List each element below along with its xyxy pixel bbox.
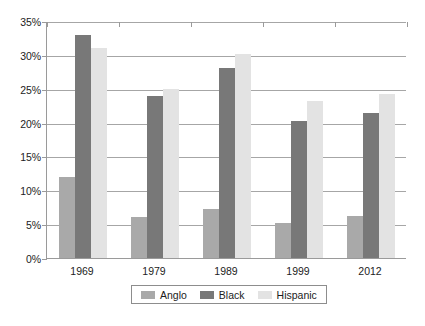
- legend-label-black: Black: [219, 289, 245, 301]
- legend-item-hispanic: Hispanic: [258, 289, 317, 301]
- legend-item-anglo: Anglo: [141, 289, 187, 301]
- legend-item-black: Black: [200, 289, 245, 301]
- bar-group: [119, 22, 191, 258]
- bar-hispanic: [235, 54, 251, 258]
- legend-swatch-icon-hispanic: [258, 291, 272, 299]
- bar-group: [191, 22, 263, 258]
- x-axis-tick-mark: [191, 22, 192, 27]
- bar-hispanic: [91, 48, 107, 258]
- bar-group: [335, 22, 407, 258]
- plot-area: [46, 22, 406, 259]
- chart-legend: Anglo Black Hispanic: [131, 285, 327, 304]
- x-axis-tick-mark: [263, 22, 264, 27]
- bar-anglo: [131, 217, 147, 258]
- y-axis-tick-label: 10%: [1, 185, 41, 197]
- y-axis-tick-label: 25%: [1, 84, 41, 96]
- bar-anglo: [347, 216, 363, 258]
- bar-group: [47, 22, 119, 258]
- bar-black: [291, 121, 307, 258]
- bar-anglo: [59, 177, 75, 258]
- y-axis-tick-label: 0%: [1, 253, 41, 265]
- x-axis-tick-label: 2012: [340, 265, 400, 277]
- x-axis-tick-label: 1979: [124, 265, 184, 277]
- x-axis-tick-mark: [119, 22, 120, 27]
- bar-black: [363, 113, 379, 258]
- x-axis-tick-label: 1999: [268, 265, 328, 277]
- bar-black: [75, 35, 91, 258]
- bar-hispanic: [379, 94, 395, 258]
- legend-label-anglo: Anglo: [160, 289, 187, 301]
- bar-black: [219, 68, 235, 258]
- bar-chart-figure: 0%5%10%15%20%25%30%35% 19691979198919992…: [0, 0, 425, 326]
- x-axis-tick-mark: [407, 22, 408, 27]
- bar-hispanic: [307, 101, 323, 258]
- x-axis-tick-mark: [335, 22, 336, 27]
- y-axis-tick-label: 20%: [1, 118, 41, 130]
- y-axis-tick-label: 35%: [1, 16, 41, 28]
- bar-group: [263, 22, 335, 258]
- legend-swatch-icon-black: [200, 291, 214, 299]
- y-axis-tick-label: 30%: [1, 50, 41, 62]
- legend-label-hispanic: Hispanic: [277, 289, 317, 301]
- legend-swatch-icon-anglo: [141, 291, 155, 299]
- bar-hispanic: [163, 89, 179, 258]
- x-axis-tick-mark: [47, 22, 48, 27]
- bar-anglo: [275, 223, 291, 258]
- bar-black: [147, 96, 163, 259]
- y-axis-tick-label: 15%: [1, 151, 41, 163]
- bar-anglo: [203, 209, 219, 258]
- y-axis-tick-label: 5%: [1, 219, 41, 231]
- x-axis-tick-label: 1989: [196, 265, 256, 277]
- y-axis-tick-mark: [42, 259, 47, 260]
- x-axis-tick-label: 1969: [52, 265, 112, 277]
